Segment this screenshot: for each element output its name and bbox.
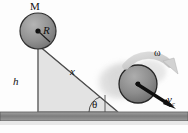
top-disk <box>20 13 56 49</box>
label-distance-x: x <box>70 66 75 77</box>
label-angle-theta: θ <box>92 99 97 110</box>
diagram-canvas <box>0 0 188 133</box>
ground-slab <box>0 112 188 121</box>
label-mass-M: M <box>30 1 40 12</box>
physics-diagram-figure: M R h x θ ω vc <box>0 0 188 133</box>
label-height-h: h <box>13 76 19 87</box>
label-velocity-vc: vc <box>167 94 175 108</box>
ground-shadow-band <box>0 121 188 125</box>
label-radius-R: R <box>43 25 50 36</box>
label-angular-velocity-omega: ω <box>154 48 161 58</box>
label-velocity-subscript: c <box>172 100 175 107</box>
